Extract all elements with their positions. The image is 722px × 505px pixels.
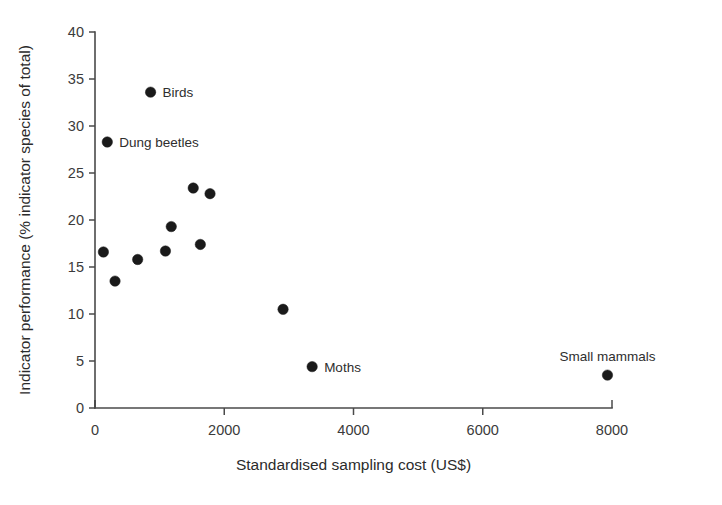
y-axis-tick-label: 35: [68, 71, 84, 87]
data-point-label: Small mammals: [559, 349, 655, 364]
y-axis-tick-label: 20: [68, 212, 84, 228]
data-point[interactable]: [145, 87, 155, 97]
data-point[interactable]: [102, 137, 112, 147]
data-point[interactable]: [195, 239, 205, 249]
data-point[interactable]: [160, 246, 170, 256]
x-axis-tick-label: 6000: [467, 422, 499, 438]
y-axis-tick-label: 30: [68, 118, 84, 134]
y-axis-tick-label: 15: [68, 259, 84, 275]
y-axis-tick-label: 10: [68, 306, 84, 322]
data-point[interactable]: [166, 221, 176, 231]
data-point[interactable]: [188, 183, 198, 193]
x-axis-tick-label: 4000: [337, 422, 369, 438]
y-axis-title: Indicator performance (% indicator speci…: [16, 45, 33, 395]
y-axis-tick-label: 0: [76, 400, 84, 416]
y-axis-tick-label: 5: [76, 353, 84, 369]
plot-canvas: 051015202530354002000400060008000Dung be…: [0, 0, 722, 505]
data-point[interactable]: [307, 361, 317, 371]
y-axis-tick-label: 25: [68, 165, 84, 181]
data-point[interactable]: [205, 188, 215, 198]
data-point[interactable]: [278, 304, 288, 314]
y-axis-tick-label: 40: [68, 24, 84, 40]
x-axis-tick-label: 2000: [208, 422, 240, 438]
x-axis-tick-label: 8000: [596, 422, 628, 438]
scatter-chart-figure: 051015202530354002000400060008000Dung be…: [0, 0, 722, 505]
data-point[interactable]: [98, 247, 108, 257]
data-point-label: Birds: [163, 85, 194, 100]
data-point-label: Dung beetles: [119, 135, 199, 150]
data-point[interactable]: [602, 370, 612, 380]
data-point-label: Moths: [324, 360, 361, 375]
data-point[interactable]: [132, 254, 142, 264]
x-axis-tick-label: 0: [91, 422, 99, 438]
data-point[interactable]: [110, 276, 120, 286]
x-axis-title: Standardised sampling cost (US$): [236, 456, 471, 473]
